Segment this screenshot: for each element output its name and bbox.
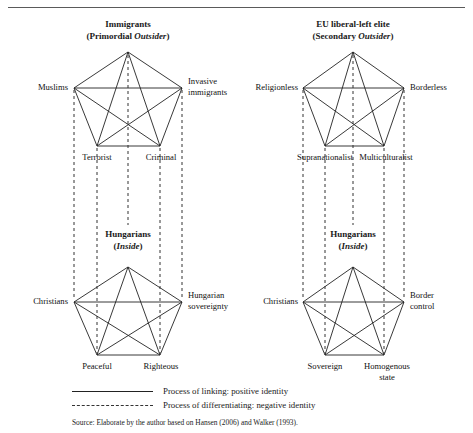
group-title-right-inside-line1: Hungarians xyxy=(330,228,376,240)
group-title-right-outsider-line2: (Secondary Outsider) xyxy=(313,30,394,42)
figure-root: Immigrants (Primordial Outsider) Muslims… xyxy=(0,0,473,433)
vertex-label-righteous: Righteous xyxy=(144,361,179,372)
vertex-label-christians-left: Christians xyxy=(33,296,68,307)
legend-row-differentiating: Process of differentiating: negative ide… xyxy=(72,400,315,410)
group-title-left-inside-line1: Hungarians xyxy=(105,228,151,240)
source-note: Source: Elaborate by the author based on… xyxy=(72,418,298,427)
group-title-right-inside: Hungarians (Inside) xyxy=(330,228,376,252)
vertex-label-muslims: Muslims xyxy=(38,82,68,93)
group-title-right-outsider: EU liberal-left elite (Secondary Outside… xyxy=(313,18,394,42)
group-title-left-outsider-line2: (Primordial Outsider) xyxy=(87,30,170,42)
pentagon-right-inside xyxy=(303,267,404,355)
vertex-label-peaceful: Peaceful xyxy=(82,361,112,372)
vertex-label-criminal: Criminal xyxy=(146,152,177,163)
group-title-right-inside-line2: (Inside) xyxy=(330,240,376,252)
vertex-label-hungarian-sovereignty: Hungarian sovereignty xyxy=(188,290,228,312)
group-title-left-inside: Hungarians (Inside) xyxy=(105,228,151,252)
legend-label-differentiating: Process of differentiating: negative ide… xyxy=(163,400,315,410)
dashed-connectors-left xyxy=(74,55,182,353)
group-title-left-outsider: Immigrants (Primordial Outsider) xyxy=(87,18,170,42)
group-title-left-outsider-line1: Immigrants xyxy=(87,18,170,30)
dashed-connectors-right xyxy=(303,55,404,353)
vertex-label-religionless: Religionless xyxy=(256,82,299,93)
vertex-label-border-control: Border control xyxy=(410,290,434,312)
vertex-label-multiculturalist: Multiculturalist xyxy=(359,152,412,163)
legend-dashed-line-swatch xyxy=(72,405,153,406)
vertex-label-invasive-immigrants: Invasive immigrants xyxy=(188,76,227,98)
group-title-right-outsider-line1: EU liberal-left elite xyxy=(313,18,394,30)
vertex-label-homogenous-state: Homogenous state xyxy=(364,361,410,383)
vertex-label-sovereign: Sovereign xyxy=(308,361,343,372)
legend-row-linking: Process of linking: positive identity xyxy=(72,386,288,396)
legend-label-linking: Process of linking: positive identity xyxy=(163,386,288,396)
pentagon-left-inside xyxy=(74,267,182,355)
group-title-left-inside-line2: (Inside) xyxy=(105,240,151,252)
vertex-label-supranationalist: Supranationalist xyxy=(297,152,353,163)
vertex-label-christians-right: Christians xyxy=(263,296,298,307)
vertex-label-terrorist: Terrorist xyxy=(82,152,111,163)
legend-solid-line-swatch xyxy=(72,391,153,392)
vertex-label-borderless: Borderless xyxy=(410,82,447,93)
